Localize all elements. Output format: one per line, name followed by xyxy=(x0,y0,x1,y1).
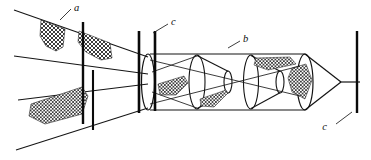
fyke-net-diagram: a b c c xyxy=(0,0,371,160)
label-b: b xyxy=(243,33,248,44)
figure-canvas: a b c c xyxy=(0,0,371,160)
leader-label-c-upper xyxy=(153,24,168,33)
net-mouth-hoop xyxy=(142,54,155,110)
funnel-2-throat xyxy=(276,71,284,93)
funnel-1-taper-top xyxy=(197,56,228,72)
leader-label-a xyxy=(60,9,71,20)
label-a: a xyxy=(74,2,79,13)
leader-label-b xyxy=(228,41,240,48)
label-c-upper: c xyxy=(171,16,176,27)
hoop-mouth xyxy=(142,54,155,110)
cod-end-taper-bottom xyxy=(305,82,341,110)
funnel-2-taper-bottom xyxy=(251,93,280,109)
funnel-1-throat xyxy=(224,71,232,93)
mesh-panel-mouth xyxy=(158,76,188,95)
mesh-panel-wing-3 xyxy=(29,87,88,124)
stakes xyxy=(83,22,357,130)
mesh-panel-funnel-2-upper xyxy=(254,57,296,70)
leader-line-upper-mid xyxy=(14,56,148,74)
wing-mesh-panels xyxy=(29,20,112,124)
leader-wing-lines xyxy=(14,10,148,150)
leader-label-c-lower xyxy=(336,112,352,124)
label-c-lower: c xyxy=(322,121,327,132)
mesh-panel-wing-1 xyxy=(40,20,65,51)
